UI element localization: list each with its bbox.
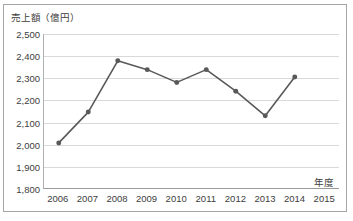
y-axis-tick-labels: 2,5002,4002,3002,2002,1002,0001,9001,800 (4, 34, 40, 189)
y-axis-tick-label: 2,000 (6, 139, 40, 150)
x-axis-tick-label: 2007 (77, 193, 98, 204)
y-axis-title: 売上額（億円） (11, 10, 80, 24)
x-axis-tick-labels: 2006200720082009201020112012201320142015 (43, 193, 339, 209)
series-line (59, 61, 295, 143)
x-axis-tick-label: 2011 (196, 193, 216, 204)
data-point-marker (174, 80, 179, 85)
x-axis-tick-label: 2006 (47, 193, 68, 204)
y-axis-tick-label: 2,400 (6, 51, 40, 62)
y-axis-tick-label: 2,500 (6, 29, 40, 40)
x-axis-tick-label: 2015 (314, 193, 335, 204)
plot-area (43, 34, 339, 189)
x-axis-tick-label: 2010 (166, 193, 187, 204)
x-axis-tick-label: 2009 (136, 193, 157, 204)
x-axis-tick-label: 2012 (225, 193, 246, 204)
x-axis-tick-label: 2013 (254, 193, 275, 204)
y-axis-tick-label: 2,200 (6, 95, 40, 106)
data-point-marker (145, 67, 150, 72)
y-axis-tick-label: 2,300 (6, 73, 40, 84)
data-point-marker (115, 58, 120, 63)
data-point-marker (56, 140, 61, 145)
y-axis-tick-label: 1,900 (6, 161, 40, 172)
data-point-marker (292, 74, 297, 79)
x-axis-tick-label: 2008 (106, 193, 127, 204)
line-series (44, 34, 339, 188)
x-axis-title: 年度 (314, 175, 334, 189)
data-point-marker (86, 110, 91, 115)
y-axis-tick-label: 2,100 (6, 117, 40, 128)
data-point-marker (204, 67, 209, 72)
y-axis-tick-label: 1,800 (6, 184, 40, 195)
x-axis-tick-label: 2014 (284, 193, 305, 204)
data-point-marker (263, 113, 268, 118)
data-point-marker (233, 89, 238, 94)
chart-figure: 売上額（億円） 2,5002,4002,3002,2002,1002,0001,… (3, 4, 347, 212)
